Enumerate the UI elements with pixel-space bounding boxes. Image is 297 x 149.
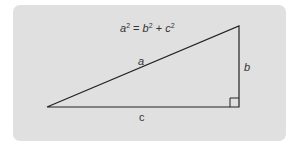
formula-plus: +	[153, 22, 166, 34]
right-angle-marker	[230, 98, 239, 107]
formula-exp: 2	[171, 22, 175, 29]
vertical-leg-label: b	[244, 62, 250, 73]
formula-equals: =	[130, 22, 143, 34]
pythagorean-formula: a2 = b2 + c2	[120, 22, 175, 34]
hypotenuse-label: a	[138, 56, 144, 67]
horizontal-leg-label: c	[139, 112, 145, 123]
